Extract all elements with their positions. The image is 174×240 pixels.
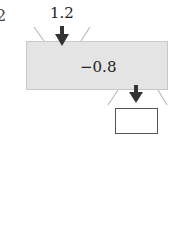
answer-box[interactable] [115,108,158,134]
